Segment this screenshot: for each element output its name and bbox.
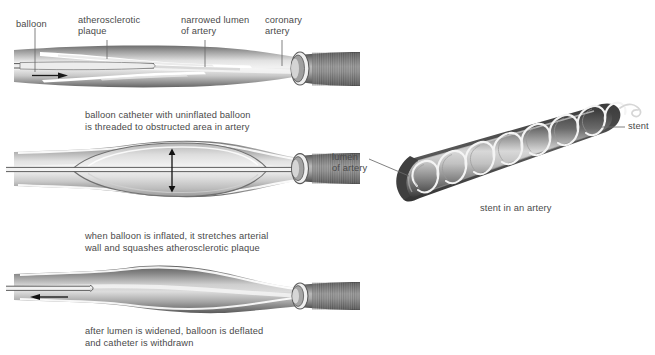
label-balloon: balloon <box>16 19 47 30</box>
label-stent: stent <box>628 121 649 132</box>
label-lumen-of-artery: lumen of artery <box>332 152 367 175</box>
caption-panel1: balloon catheter with uninflated balloon… <box>85 110 251 133</box>
label-narrowed-lumen: narrowed lumen of artery <box>181 15 249 38</box>
caption-panel2: when balloon is inflated, it stretches a… <box>85 231 268 254</box>
caption-panel3: after lumen is widened, balloon is defla… <box>85 326 263 349</box>
label-atherosclerotic-plaque: atherosclerotic plaque <box>78 15 140 38</box>
label-coronary-artery: coronary artery <box>265 15 302 38</box>
figure-text-layer: balloon atherosclerotic plaque narrowed … <box>0 0 655 355</box>
caption-panel4: stent in an artery <box>480 203 551 215</box>
